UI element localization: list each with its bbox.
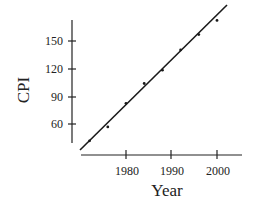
y-tick-label-60: 60 (51, 117, 63, 131)
data-point (143, 82, 146, 85)
data-point (88, 139, 91, 142)
data-point (216, 19, 219, 22)
x-tick-label-2000: 2000 (206, 164, 230, 178)
y-axis-title: CPI (14, 76, 33, 103)
y-tick-label-120: 120 (45, 62, 63, 76)
data-point (161, 69, 164, 72)
regression-line (80, 5, 227, 150)
data-point (125, 102, 128, 105)
data-point (179, 49, 182, 52)
y-tick-label-150: 150 (45, 34, 63, 48)
x-tick-label-1980: 1980 (115, 164, 139, 178)
data-point (106, 126, 109, 129)
x-axis-title: Year (151, 181, 183, 199)
x-tick-label-1990: 1990 (160, 164, 184, 178)
y-tick-label-90: 90 (51, 90, 63, 104)
data-point (197, 33, 200, 36)
cpi-scatter-chart: 150 120 90 60 CPI 1980 1990 2000 Year (0, 0, 255, 199)
